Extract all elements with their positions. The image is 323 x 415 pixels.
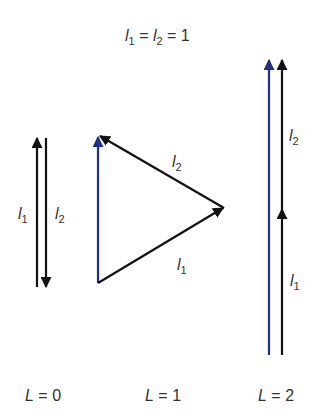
label-sub: 2 bbox=[59, 213, 65, 225]
label-sub: 1 bbox=[22, 213, 28, 225]
label-l1-panel2: l1 bbox=[290, 272, 300, 292]
title-eq1: = bbox=[135, 27, 153, 44]
panel-l0 bbox=[37, 138, 46, 287]
label-rest: = 2 bbox=[267, 387, 294, 404]
label-var: L bbox=[25, 387, 34, 404]
label-var: L bbox=[145, 387, 154, 404]
vector-l2 bbox=[100, 136, 224, 208]
label-rest: = 1 bbox=[154, 387, 181, 404]
vector-diagram bbox=[0, 0, 323, 415]
label-rest: = 0 bbox=[34, 387, 61, 404]
label-l1-panel1: l1 bbox=[177, 256, 187, 276]
panel-l1 bbox=[98, 136, 224, 283]
panel-l2 bbox=[269, 60, 282, 355]
label-sub: 2 bbox=[176, 161, 182, 173]
title-eq2: = 1 bbox=[163, 27, 190, 44]
panel-label-l0: L = 0 bbox=[25, 387, 61, 405]
label-l2-panel2: l2 bbox=[289, 127, 299, 147]
label-sub: 1 bbox=[181, 264, 187, 276]
panel-label-l2: L = 2 bbox=[258, 387, 294, 405]
panel-label-l1: L = 1 bbox=[145, 387, 181, 405]
diagram-title: l1 = l2 = 1 bbox=[125, 27, 190, 47]
label-l1-panel0: l1 bbox=[18, 205, 28, 225]
label-var: L bbox=[258, 387, 267, 404]
vector-l1 bbox=[98, 208, 223, 283]
label-l2-panel0: l2 bbox=[55, 205, 65, 225]
label-sub: 2 bbox=[293, 135, 299, 147]
label-sub: 1 bbox=[294, 280, 300, 292]
label-l2-panel1: l2 bbox=[172, 153, 182, 173]
